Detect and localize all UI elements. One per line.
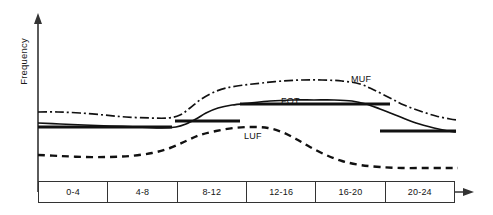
x-axis-category-table: 0-44-88-1212-1616-2020-24: [38, 181, 455, 203]
x-axis-cell-8-12: 8-12: [178, 182, 247, 202]
x-axis-cell-20-24: 20-24: [386, 182, 454, 202]
x-axis-cell-label: 8-12: [202, 187, 221, 197]
x-axis-cell-label: 12-16: [269, 187, 293, 197]
x-axis-cell-label: 4-8: [136, 187, 150, 197]
chart-shelf-bars: [38, 104, 456, 131]
x-axis-cell-label: 0-4: [66, 187, 80, 197]
y-axis-arrowhead: [34, 13, 42, 24]
x-axis-cell-16-20: 16-20: [316, 182, 385, 202]
series-label-luf: LUF: [244, 131, 262, 141]
series-label-fot: FOT: [281, 96, 300, 106]
y-axis-title: Frequency: [18, 17, 29, 107]
x-axis-arrowhead: [463, 188, 474, 196]
x-axis-cell-label: 20-24: [408, 187, 432, 197]
x-axis-cell-0-4: 0-4: [39, 182, 108, 202]
x-axis-cell-label: 16-20: [338, 187, 362, 197]
x-axis-cell-4-8: 4-8: [108, 182, 177, 202]
x-axis-cell-12-16: 12-16: [247, 182, 316, 202]
series-label-muf: MUF: [351, 74, 371, 84]
ionospheric-frequency-chart: Frequency MUF FOT LUF 0-44-88-1212-1616-…: [0, 0, 493, 215]
chart-curves: [38, 80, 458, 168]
